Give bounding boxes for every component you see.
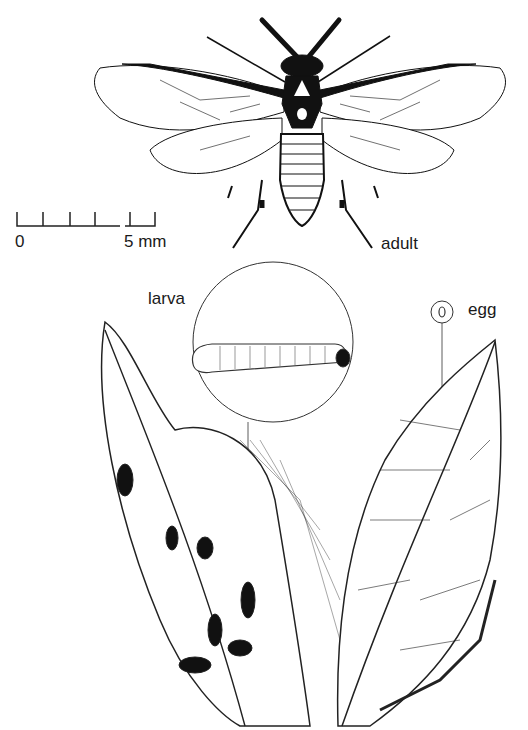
scale-bar [17,212,155,226]
scale-end-label: 5 mm [124,232,167,252]
adult-sawfly [94,20,505,248]
damaged-leaf [102,322,340,726]
larva-label: larva [148,289,185,309]
adult-label: adult [381,234,418,254]
scale-start-label: 0 [15,232,24,252]
healthy-leaf [338,340,501,726]
egg-label: egg [468,300,496,320]
illustration [0,0,528,730]
